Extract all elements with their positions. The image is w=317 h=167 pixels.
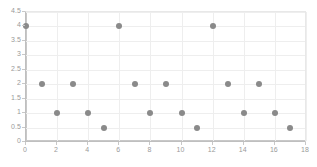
x-tick-label: 18 — [293, 146, 317, 154]
x-tick-label: 6 — [106, 146, 130, 154]
x-tick-label: 10 — [169, 146, 193, 154]
x-tick-label: 0 — [13, 146, 37, 154]
x-tick-label: 14 — [231, 146, 255, 154]
x-tick-label: 2 — [44, 146, 68, 154]
scatter-chart: 00.511.522.533.544.5 024681012141618 — [0, 0, 317, 167]
x-axis-labels: 024681012141618 — [0, 0, 317, 167]
x-tick-label: 8 — [137, 146, 161, 154]
x-tick-label: 12 — [200, 146, 224, 154]
x-tick-label: 4 — [75, 146, 99, 154]
x-tick-label: 16 — [262, 146, 286, 154]
